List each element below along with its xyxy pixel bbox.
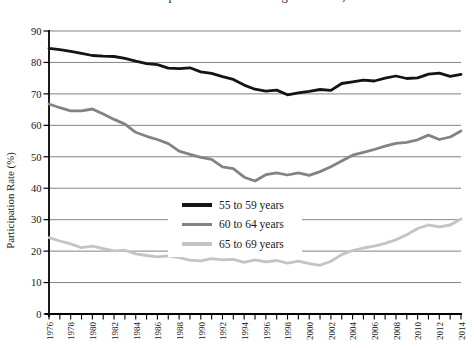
- x-tick-label: 2012: [435, 322, 445, 340]
- x-tick-label: 1996: [262, 322, 272, 341]
- x-tick-label: 2002: [327, 322, 337, 340]
- x-tick-label: 2014: [457, 322, 467, 341]
- y-tick-label: 90: [31, 26, 42, 37]
- plot-area: 0102030405060708090197619781980198219841…: [0, 0, 474, 348]
- y-tick-label: 20: [31, 246, 42, 257]
- y-tick-label: 0: [36, 309, 41, 320]
- legend-label-65-69: 65 to 69 years: [219, 238, 284, 250]
- x-tick-label: 1992: [218, 322, 228, 340]
- legend-label-60-64: 60 to 64 years: [219, 218, 284, 230]
- y-tick-label: 80: [31, 57, 42, 68]
- y-tick-label: 10: [31, 277, 42, 288]
- legend-item-60-64: 60 to 64 years: [182, 215, 302, 235]
- x-tick-label: 2006: [370, 322, 380, 341]
- x-tick-label: 1984: [132, 322, 142, 341]
- legend-item-55-59: 55 to 59 years: [182, 195, 302, 215]
- y-axis-title: Participation Rate (%): [4, 116, 19, 286]
- legend-label-55-59: 55 to 59 years: [219, 199, 284, 211]
- legend-swatch-60-64: [182, 223, 212, 227]
- x-tick-label: 2000: [305, 322, 315, 341]
- legend-item-65-69: 65 to 69 years: [182, 234, 302, 254]
- x-tick-label: 1982: [110, 322, 120, 340]
- x-tick-label: 1976: [45, 322, 55, 341]
- y-tick-label: 50: [31, 152, 42, 163]
- x-tick-label: 2010: [413, 322, 423, 341]
- legend-swatch-55-59: [182, 203, 212, 207]
- y-tick-label: 60: [31, 120, 42, 131]
- series-line-55-to-59-years: [49, 48, 461, 95]
- series-line-60-to-64-years: [49, 104, 461, 181]
- x-tick-label: 1980: [88, 322, 98, 341]
- chart-container: Labor Force Participation Rates of Men A…: [0, 0, 474, 348]
- x-tick-label: 1986: [153, 322, 163, 341]
- x-tick-label: 2008: [392, 322, 402, 341]
- x-tick-label: 1994: [240, 322, 250, 341]
- legend: 55 to 59 years 60 to 64 years 65 to 69 y…: [168, 192, 302, 257]
- x-tick-label: 1988: [175, 322, 185, 341]
- legend-swatch-65-69: [182, 242, 212, 246]
- y-tick-label: 70: [31, 89, 42, 100]
- x-tick-label: 1978: [66, 322, 76, 341]
- y-tick-label: 30: [31, 214, 42, 225]
- x-tick-label: 1990: [197, 322, 207, 341]
- y-tick-label: 40: [31, 183, 42, 194]
- x-tick-label: 2004: [348, 322, 358, 341]
- x-tick-label: 1998: [283, 322, 293, 341]
